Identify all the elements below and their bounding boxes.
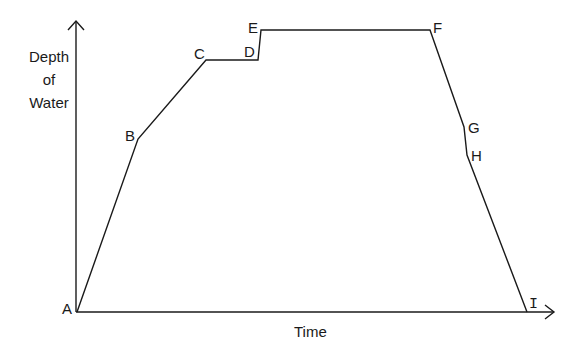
point-label-h: H	[471, 148, 482, 163]
point-label-b: B	[125, 128, 135, 143]
y-axis-title-line-2: of	[18, 68, 80, 91]
depth-time-graph	[0, 0, 576, 360]
y-axis-title-line-3: Water	[18, 91, 80, 114]
y-axis-title: Depth of Water	[18, 45, 80, 114]
depth-curve	[77, 30, 527, 312]
point-label-c: C	[194, 46, 205, 61]
x-axis-title: Time	[294, 323, 327, 340]
point-label-a: A	[62, 301, 72, 316]
point-label-e: E	[248, 20, 258, 35]
point-label-d: D	[244, 44, 255, 59]
point-label-f: F	[433, 20, 442, 35]
y-axis-title-line-1: Depth	[18, 45, 80, 68]
point-label-g: G	[468, 120, 480, 135]
point-label-i: I	[529, 297, 538, 312]
